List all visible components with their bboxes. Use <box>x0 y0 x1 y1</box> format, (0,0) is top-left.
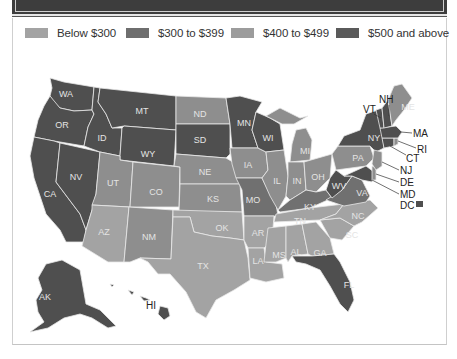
state-hi <box>158 306 170 320</box>
label-wv: WV <box>332 181 347 191</box>
label-nd: ND <box>194 109 207 119</box>
label-wa: WA <box>59 89 73 99</box>
state-co <box>130 162 180 207</box>
label-ok: OK <box>215 223 228 233</box>
state-dc-marker <box>416 201 423 207</box>
us-map: WA OR CA NV ID MT WY UT CO AZ NM ND SD N… <box>0 0 457 359</box>
label-me: ME <box>401 102 415 112</box>
label-ma: MA <box>413 128 428 139</box>
label-ne: NE <box>199 167 212 177</box>
label-in: IN <box>293 176 302 186</box>
label-ut: UT <box>107 178 119 188</box>
label-la: LA <box>252 256 263 266</box>
label-az: AZ <box>98 227 110 237</box>
label-tn: TN <box>294 216 306 226</box>
label-ks: KS <box>207 194 219 204</box>
label-nm: NM <box>142 232 156 242</box>
state-ri <box>394 138 398 146</box>
label-or: OR <box>55 120 69 130</box>
label-mo: MO <box>246 195 261 205</box>
label-sd: SD <box>194 135 207 145</box>
state-mi <box>290 128 312 162</box>
label-nc: NC <box>352 211 365 221</box>
label-id: ID <box>98 133 108 143</box>
state-hi-4 <box>110 284 114 287</box>
label-ky: KY <box>304 202 316 212</box>
label-mt: MT <box>136 106 149 116</box>
label-nj: NJ <box>400 165 412 176</box>
label-ak: AK <box>39 292 51 302</box>
label-dc: DC <box>400 200 414 211</box>
label-nv: NV <box>70 172 83 182</box>
label-va: VA <box>356 188 367 198</box>
label-fl: FL <box>344 280 355 290</box>
label-ca: CA <box>44 189 57 199</box>
label-wy: WY <box>141 149 156 159</box>
label-ia: IA <box>244 160 253 170</box>
label-md: MD <box>400 189 416 200</box>
label-tx: TX <box>197 261 209 271</box>
label-ny: NY <box>368 133 381 143</box>
label-ms: MS <box>272 250 286 260</box>
label-ar: AR <box>252 228 265 238</box>
label-co: CO <box>149 187 163 197</box>
label-oh: OH <box>311 172 325 182</box>
label-il: IL <box>273 176 281 186</box>
label-ga: GA <box>313 248 326 258</box>
label-vt: VT <box>363 104 376 115</box>
label-hi: HI <box>146 300 156 311</box>
label-nh: NH <box>379 94 393 105</box>
label-mi: MI <box>300 146 310 156</box>
state-wy <box>120 126 176 166</box>
label-de: DE <box>400 177 414 188</box>
label-sc: SC <box>346 230 359 240</box>
label-al: AL <box>290 247 301 257</box>
label-wi: WI <box>263 133 274 143</box>
state-hi-2 <box>128 290 134 295</box>
label-pa: PA <box>352 153 363 163</box>
state-ct <box>382 138 394 148</box>
label-ct: CT <box>406 153 419 164</box>
label-mn: MN <box>237 118 251 128</box>
